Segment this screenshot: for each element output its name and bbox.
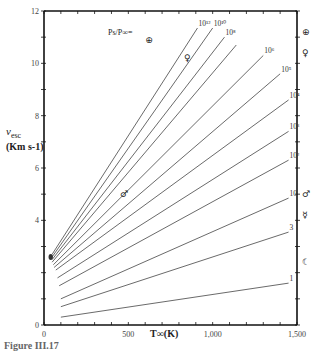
curve-label: 1	[290, 274, 294, 283]
curve-3	[61, 232, 289, 307]
x-tick-label: 1,000	[204, 330, 222, 339]
curve-label: 10⁴	[290, 91, 301, 100]
curve-label: 10⁵	[281, 65, 292, 74]
planet-venus-icon: ♀	[302, 48, 309, 58]
convergence-point	[49, 254, 53, 260]
curve-10^5	[54, 74, 280, 268]
curve-10^12	[52, 28, 197, 254]
curve-label: 10³	[290, 122, 301, 131]
y-tick-label: 12	[31, 7, 39, 16]
curve-label: 10	[290, 189, 298, 198]
curve-10^2	[59, 160, 288, 286]
planet-mars-icon: ♂	[302, 189, 310, 199]
curve-1	[61, 283, 289, 317]
curve-10	[61, 198, 289, 299]
y-tick-label: 8	[35, 112, 39, 121]
planet-earth-icon: ⊕	[302, 27, 310, 37]
x-tick-label: 0	[42, 330, 46, 339]
curve-10^3	[57, 131, 288, 278]
curve-10^7	[52, 45, 236, 262]
curve-10^6	[53, 55, 263, 264]
y-tick-label: 10	[31, 59, 39, 68]
curve-10^4	[56, 100, 289, 270]
figure-caption: Figure III.17	[4, 340, 59, 351]
x-tick-label: 500	[122, 330, 134, 339]
curve-label: 10⁶	[264, 46, 275, 55]
curve-label: 10¹²	[198, 19, 211, 28]
planet-venus-icon: ♀	[184, 53, 191, 63]
curve-label: 10¹⁰	[214, 19, 227, 28]
y-tick-label: 0	[35, 321, 39, 330]
planet-moon-icon: ☾	[302, 257, 310, 267]
y-tick-label: 4	[35, 216, 39, 225]
x-tick-label: 1,500	[288, 330, 306, 339]
planet-mars-icon: ♂	[120, 189, 128, 199]
x-axis-label: T∞(K)	[150, 328, 178, 339]
y-tick-label: 6	[35, 164, 39, 173]
planet-mercury-icon: ☿	[302, 210, 308, 220]
curve-label: 10⁸	[225, 28, 236, 37]
pressure-ratio-label: Ps/P∞=	[108, 28, 132, 37]
y-axis-label: vesc (Km s-1)	[6, 126, 44, 152]
curve-label: 3	[290, 223, 294, 232]
planet-earth-icon: ⊕	[145, 35, 153, 45]
curve-label: 10²	[290, 151, 301, 160]
